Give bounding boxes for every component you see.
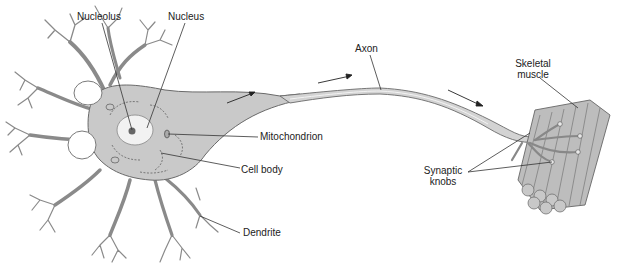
label-nucleus: Nucleus — [168, 11, 204, 22]
nucleus — [117, 115, 153, 145]
label-cell-body: Cell body — [241, 164, 283, 175]
label-skeletal-muscle: Skeletal muscle — [508, 58, 558, 80]
label-synaptic-knobs: Synaptic knobs — [420, 165, 466, 187]
label-dendrite: Dendrite — [243, 227, 281, 238]
label-mitochondrion: Mitochondrion — [260, 131, 323, 142]
skeletal-muscle — [518, 100, 610, 214]
label-axon: Axon — [355, 43, 378, 54]
label-nucleolus: Nucleolus — [77, 11, 121, 22]
